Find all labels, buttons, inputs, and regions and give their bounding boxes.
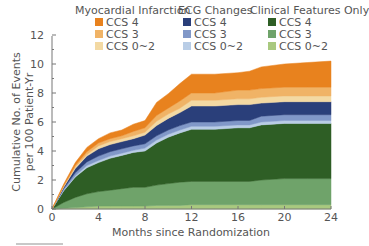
y-tick-label: 6 (37, 116, 44, 129)
x-tick-label: 16 (231, 211, 245, 224)
y-tick-label: 10 (30, 58, 44, 71)
x-axis-label: Months since Randomization (112, 226, 270, 239)
y-tick-label: 2 (37, 174, 44, 187)
x-tick-label: 12 (185, 211, 199, 224)
y-tick-label: 8 (37, 87, 44, 100)
x-tick-label: 20 (278, 211, 292, 224)
x-tick-label: 4 (95, 211, 102, 224)
y-tick-label: 0 (37, 203, 44, 216)
svg-text:Cumulative No. of Events: Cumulative No. of Events (10, 52, 23, 192)
y-tick-label: 4 (37, 145, 44, 158)
y-axis-label: Cumulative No. of Events per 100 Patient… (10, 52, 36, 192)
plot-areas (52, 61, 331, 209)
x-tick-label: 24 (324, 211, 338, 224)
y-tick-label: 12 (30, 29, 44, 42)
footer-rule (16, 243, 63, 245)
svg-text:per 100 Patient-Yr: per 100 Patient-Yr (23, 72, 36, 171)
x-tick-label: 0 (49, 211, 56, 224)
x-tick-label: 8 (142, 211, 149, 224)
